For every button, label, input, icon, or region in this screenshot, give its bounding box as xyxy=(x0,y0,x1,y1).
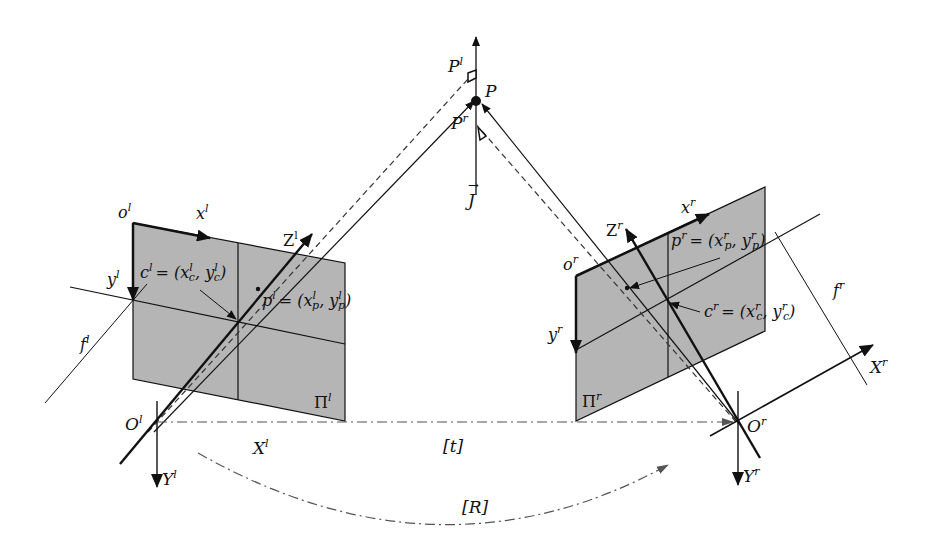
left-projection-dot xyxy=(256,287,260,291)
right-x-axis xyxy=(710,345,873,436)
label-right-Y: Yr xyxy=(743,465,760,486)
label-left-X: Xl xyxy=(251,437,269,458)
label-right-origin: or xyxy=(563,253,579,274)
diagram-canvas: Pl P Pr → J ol xl yl cl= (xlc, ylc) pl= … xyxy=(0,0,932,540)
stereo-geometry-diagram: Pl P Pr → J ol xl yl cl= (xlc, ylc) pl= … xyxy=(0,0,932,540)
label-right-x: xr xyxy=(681,196,696,217)
label-left-center: Ol xyxy=(125,413,143,434)
label-right-center: Or xyxy=(747,415,767,436)
label-p-left: Pl xyxy=(447,55,463,76)
label-left-z: Zl xyxy=(283,229,298,250)
label-right-z: Zr xyxy=(606,219,623,240)
label-left-focal: fl xyxy=(79,333,90,354)
left-image-plane xyxy=(70,223,345,421)
rotation-arc xyxy=(198,453,668,525)
left-proj-marker xyxy=(468,70,476,82)
label-left-x: xl xyxy=(196,202,209,223)
label-j: J xyxy=(465,190,476,210)
right-projection-dot xyxy=(625,286,629,290)
label-p-right: Pr xyxy=(450,112,468,133)
label-right-focal: fr xyxy=(832,279,845,300)
label-left-Y: Yl xyxy=(162,468,177,489)
point-p xyxy=(471,96,481,106)
label-left-origin: ol xyxy=(118,201,132,222)
label-translation: [t] xyxy=(443,436,463,456)
label-p: P xyxy=(484,81,497,101)
label-rotation: [R] xyxy=(462,497,488,517)
left-focal-line xyxy=(45,284,147,403)
label-right-X: Xr xyxy=(868,356,888,377)
label-right-y: yr xyxy=(547,323,563,344)
label-left-y: yl xyxy=(106,268,120,289)
